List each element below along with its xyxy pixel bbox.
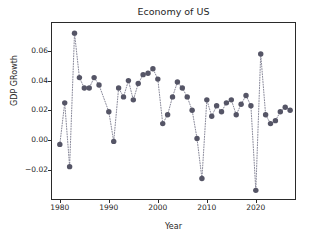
x-tick-label: 2020 [236, 203, 276, 212]
x-axis-label: Year [51, 222, 296, 231]
data-point [116, 85, 121, 90]
y-tick: −0.02 [0, 165, 48, 175]
data-point [268, 121, 273, 126]
data-point [263, 112, 268, 117]
series-line [60, 33, 290, 190]
data-point [77, 75, 82, 80]
data-point [106, 109, 111, 114]
data-point [185, 94, 190, 99]
y-tick-mark [48, 110, 51, 111]
data-point [243, 93, 248, 98]
x-tick-label: 2010 [187, 203, 227, 212]
y-tick-mark [48, 140, 51, 141]
y-tick-label: −0.02 [4, 165, 48, 174]
data-point [273, 118, 278, 123]
data-point [283, 105, 288, 110]
data-point [248, 103, 253, 108]
x-tick-mark [109, 200, 110, 203]
series-connector-lines [60, 33, 290, 190]
y-tick: 0.06 [0, 46, 48, 56]
data-point [238, 102, 243, 107]
y-tick: 0.00 [0, 135, 48, 145]
data-point [199, 176, 204, 181]
data-point [258, 51, 263, 56]
data-point [121, 94, 126, 99]
data-point [160, 121, 165, 126]
x-tick-mark [60, 200, 61, 203]
y-tick: 0.04 [0, 76, 48, 86]
data-point [111, 139, 116, 144]
data-point [131, 97, 136, 102]
data-point [189, 108, 194, 113]
data-point [209, 113, 214, 118]
x-tick-label: 2000 [138, 203, 178, 212]
y-tick-label: 0.02 [4, 105, 48, 114]
y-tick-mark [48, 51, 51, 52]
y-tick: 0.02 [0, 105, 48, 115]
plot-area [51, 22, 296, 200]
data-point [253, 188, 258, 193]
data-point [72, 30, 77, 35]
series-data-points [57, 30, 293, 193]
data-point [229, 97, 234, 102]
chart-title: Economy of US [51, 6, 296, 17]
data-point [140, 72, 145, 77]
y-tick-mark [48, 170, 51, 171]
y-tick-label: 0.06 [4, 46, 48, 55]
x-tick-label: 1990 [89, 203, 129, 212]
x-tick-mark [207, 200, 208, 203]
data-point [82, 85, 87, 90]
data-point [170, 94, 175, 99]
data-point [278, 109, 283, 114]
data-point [204, 97, 209, 102]
data-point [91, 75, 96, 80]
data-point [96, 82, 101, 87]
chart-screenshot: Economy of US GDP GRowth −0.020.000.020.… [0, 0, 314, 239]
data-point [126, 78, 131, 83]
x-tick-label: 1980 [40, 203, 80, 212]
data-point [87, 85, 92, 90]
data-point [62, 100, 67, 105]
data-point [150, 66, 155, 71]
data-point [67, 164, 72, 169]
data-point [224, 100, 229, 105]
data-point [165, 112, 170, 117]
data-point [287, 108, 292, 113]
x-tick-mark [256, 200, 257, 203]
x-tick-mark [158, 200, 159, 203]
data-point [57, 142, 62, 147]
data-point [180, 85, 185, 90]
data-point [219, 109, 224, 114]
y-tick-label: 0.00 [4, 135, 48, 144]
data-point [194, 136, 199, 141]
data-point [234, 112, 239, 117]
data-point [136, 81, 141, 86]
y-tick-label: 0.04 [4, 76, 48, 85]
data-point [145, 70, 150, 75]
y-tick-mark [48, 81, 51, 82]
data-point [155, 76, 160, 81]
data-point [214, 103, 219, 108]
data-point [175, 79, 180, 84]
